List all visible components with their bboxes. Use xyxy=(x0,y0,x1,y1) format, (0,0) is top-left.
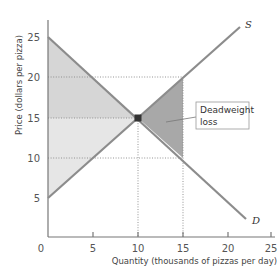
x-tick-5: 5 xyxy=(90,243,96,254)
dwl-label-line1: Deadweight xyxy=(200,105,255,115)
y-tick-5: 5 xyxy=(34,193,40,204)
equilibrium-point xyxy=(135,115,142,122)
y-tick-10: 10 xyxy=(27,153,40,164)
y-tick-20: 20 xyxy=(27,72,40,83)
deadweight-loss-area xyxy=(138,77,183,158)
x-tick-20: 20 xyxy=(222,243,235,254)
y-axis-title: Price (dollars per pizza) xyxy=(14,35,24,135)
supply-label: S xyxy=(245,19,252,30)
x-axis-title: Quantity (thousands of pizzas per day) xyxy=(112,256,277,266)
demand-label: D xyxy=(251,215,260,226)
y-tick-25: 25 xyxy=(27,32,40,43)
x-tick-10: 10 xyxy=(132,243,145,254)
x-tick-25: 25 xyxy=(265,243,278,254)
x-tick-0: 0 xyxy=(38,243,44,254)
supply-demand-chart: Deadweight loss S D 25 20 15 10 5 0 5 10… xyxy=(0,0,279,271)
y-tick-15: 15 xyxy=(27,113,40,124)
x-tick-15: 15 xyxy=(177,243,190,254)
dwl-label-line2: loss xyxy=(200,117,218,127)
